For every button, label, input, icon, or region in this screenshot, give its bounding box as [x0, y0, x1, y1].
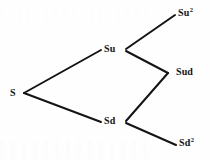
node-label-base: Sd [179, 137, 190, 148]
tree-edge-sd-to-sd2 [126, 123, 176, 145]
tree-edge-s-to-sd [24, 93, 101, 122]
node-label-base: Su [104, 43, 115, 54]
tree-edge-s-to-su [24, 50, 101, 93]
tree-edge-su-to-su2 [126, 15, 175, 49]
binomial-tree-diagram: SSuSdSu2SudSd2 [0, 0, 211, 161]
node-label-base: Sd [104, 115, 115, 126]
node-label-exponent: 2 [190, 6, 193, 13]
node-label-exponent: 2 [191, 136, 194, 143]
tree-edge-su-to-sud [126, 51, 168, 73]
node-label-base: Sud [176, 66, 193, 77]
node-label-s: S [10, 88, 16, 98]
tree-edge-sd-to-sud [126, 73, 168, 121]
node-label-sd: Sd [104, 116, 115, 126]
node-label-su2: Su2 [178, 8, 193, 18]
node-label-base: S [10, 87, 16, 98]
node-label-base: Su [178, 7, 189, 18]
node-label-su: Su [104, 44, 115, 54]
node-label-sd2: Sd2 [179, 138, 194, 148]
node-label-sud: Sud [176, 67, 193, 77]
